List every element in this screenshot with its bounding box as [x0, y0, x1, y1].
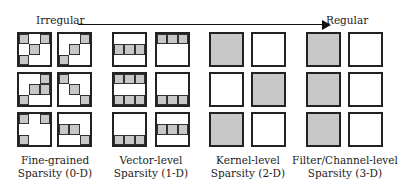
pruned-cell: [40, 74, 50, 84]
kept-cell: [69, 95, 79, 105]
pruned-cell: [80, 135, 90, 145]
kept-cell: [59, 135, 69, 145]
kernel-level-kernel: [251, 32, 286, 67]
kept-cell: [124, 55, 134, 65]
pruned-cell: [114, 95, 124, 105]
kept-cell: [29, 95, 39, 105]
pruned-cell: [167, 34, 177, 44]
kept-cell: [167, 84, 177, 94]
kept-cell: [40, 55, 50, 65]
pruned-cell: [178, 95, 188, 105]
vector-level-kernel: [155, 112, 190, 147]
pruned-cell: [124, 74, 134, 84]
filter-level-kernel: [348, 112, 383, 147]
kept-cell: [19, 74, 29, 84]
regular-label: Regular: [326, 14, 368, 26]
kept-cell: [69, 135, 79, 145]
pruned-cell: [157, 124, 167, 134]
pruned-cell: [19, 55, 29, 65]
kept-cell: [135, 124, 145, 134]
pruned-cell: [40, 84, 50, 94]
caption-line2: Sparsity (2-D): [193, 167, 303, 180]
filter-level-kernel: [306, 72, 341, 107]
kept-cell: [178, 74, 188, 84]
kept-cell: [135, 34, 145, 44]
kept-cell: [124, 84, 134, 94]
pruned-cell: [114, 44, 124, 54]
kept-cell: [157, 44, 167, 54]
kept-cell: [69, 74, 79, 84]
pruned-cell: [167, 124, 177, 134]
kernel-level-kernel: [251, 112, 286, 147]
filter-level-kernel: [306, 32, 341, 67]
pruned-cell: [80, 34, 90, 44]
vector-level-kernel: [112, 112, 147, 147]
pruned-cell: [19, 95, 29, 105]
pruned-cell: [59, 124, 69, 134]
kept-cell: [167, 135, 177, 145]
pruned-cell: [80, 95, 90, 105]
kernel-level-kernel: [251, 72, 286, 107]
pruned-cell: [69, 84, 79, 94]
kept-cell: [114, 34, 124, 44]
vector-level-kernel: [155, 72, 190, 107]
kept-cell: [40, 95, 50, 105]
kept-cell: [59, 84, 69, 94]
kept-cell: [80, 84, 90, 94]
pruned-cell: [167, 95, 177, 105]
kept-cell: [19, 84, 29, 94]
kept-cell: [135, 84, 145, 94]
pruned-cell: [157, 95, 167, 105]
pruned-cell: [124, 44, 134, 54]
filter-level-kernel: [306, 112, 341, 147]
caption-line2: Sparsity (3-D): [290, 167, 400, 180]
fine-grained-kernel: [57, 72, 92, 107]
kept-cell: [29, 55, 39, 65]
kept-cell: [124, 124, 134, 134]
kept-cell: [29, 34, 39, 44]
filter-level-kernel: [348, 72, 383, 107]
pruned-cell: [40, 34, 50, 44]
pruned-cell: [19, 135, 29, 145]
pruned-cell: [19, 114, 29, 124]
kept-cell: [157, 84, 167, 94]
pruned-cell: [69, 44, 79, 54]
kept-cell: [135, 114, 145, 124]
kept-cell: [178, 114, 188, 124]
kernel-level-kernel: [209, 72, 244, 107]
kept-cell: [157, 74, 167, 84]
fine-grained-kernel: [17, 72, 52, 107]
pruned-cell: [59, 55, 69, 65]
fine-grained-kernel: [17, 112, 52, 147]
pruned-cell: [114, 74, 124, 84]
pruned-cell: [114, 135, 124, 145]
vector-level-kernel: [155, 32, 190, 67]
pruned-cell: [135, 44, 145, 54]
vector-level-kernel: [112, 72, 147, 107]
kept-cell: [167, 114, 177, 124]
kernel-level-kernel: [209, 32, 244, 67]
kept-cell: [40, 135, 50, 145]
kept-cell: [114, 124, 124, 134]
caption-line1: Vector-level: [96, 154, 206, 167]
kept-cell: [69, 114, 79, 124]
fine-grained-kernel: [17, 32, 52, 67]
kept-cell: [80, 44, 90, 54]
kept-cell: [167, 74, 177, 84]
kept-cell: [167, 44, 177, 54]
pruned-cell: [135, 74, 145, 84]
caption-line1: Kernel-level: [193, 154, 303, 167]
pruned-cell: [29, 44, 39, 54]
kept-cell: [80, 74, 90, 84]
pruned-cell: [178, 124, 188, 134]
fine-grained-kernel: [57, 112, 92, 147]
kept-cell: [80, 114, 90, 124]
kept-cell: [178, 135, 188, 145]
kept-cell: [124, 34, 134, 44]
caption-filter-level: Filter/Channel-level Sparsity (3-D): [290, 154, 400, 180]
pruned-cell: [124, 135, 134, 145]
kept-cell: [114, 114, 124, 124]
kept-cell: [178, 44, 188, 54]
kernel-level-kernel: [209, 112, 244, 147]
kept-cell: [167, 55, 177, 65]
